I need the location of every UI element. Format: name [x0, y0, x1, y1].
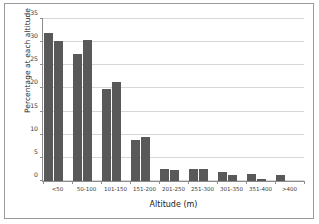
y-tick-label: 20	[30, 78, 38, 85]
bar-group	[188, 19, 217, 181]
bar-group	[159, 19, 188, 181]
x-tick-mark	[188, 181, 189, 184]
x-tick-label: 101-150	[104, 186, 127, 192]
y-tick-label: 0	[34, 171, 38, 178]
bar	[170, 170, 180, 181]
bar-group	[217, 19, 246, 181]
x-tick-mark	[130, 181, 131, 184]
bar	[83, 40, 93, 181]
x-tick-label: 201-250	[162, 186, 185, 192]
chart-canvas: Percentage at each altitude Devon Tetrad…	[5, 4, 313, 218]
x-tick-mark	[43, 181, 44, 184]
bar-group	[101, 19, 130, 181]
bar-group	[43, 19, 72, 181]
bar	[54, 41, 64, 181]
y-tick-label: 30	[30, 32, 38, 39]
x-tick-label: 351-400	[249, 186, 272, 192]
bar-group	[130, 19, 159, 181]
bar-group	[275, 19, 304, 181]
bar	[44, 33, 54, 181]
plot-area: 05101520253035 <5050-100101-150151-20020…	[43, 19, 304, 181]
x-tick-mark	[217, 181, 218, 184]
y-tick-label: 15	[30, 101, 38, 108]
x-tick-label: 251-300	[191, 186, 214, 192]
bar	[247, 174, 257, 181]
x-tick-mark	[275, 181, 276, 184]
bar	[131, 140, 141, 181]
x-tick-mark	[246, 181, 247, 184]
bar	[112, 82, 122, 181]
bar	[218, 172, 228, 181]
x-tick-label: 301-350	[220, 186, 243, 192]
bar	[160, 169, 170, 181]
x-axis-title: Altitude (m)	[43, 200, 304, 209]
x-tick-mark	[72, 181, 73, 184]
y-tick-label: 5	[34, 147, 38, 154]
bar	[73, 54, 83, 181]
x-tick-mark	[159, 181, 160, 184]
x-tick-label: <50	[52, 186, 64, 192]
x-tick-mark	[101, 181, 102, 184]
bar	[189, 169, 199, 181]
x-tick-label: 151-200	[133, 186, 156, 192]
x-tick-mark	[304, 181, 305, 184]
y-tick-label: 10	[30, 124, 38, 131]
bar	[199, 169, 209, 181]
chart-frame: Percentage at each altitude Devon Tetrad…	[4, 3, 314, 219]
y-tick-label: 25	[30, 55, 38, 62]
y-tick-label: 35	[30, 9, 38, 16]
bars-layer	[43, 19, 304, 181]
x-tick-label: >400	[282, 186, 297, 192]
bar-group	[246, 19, 275, 181]
x-axis-line	[42, 181, 305, 182]
bar	[141, 137, 151, 181]
y-axis-title: Percentage at each altitude	[23, 0, 32, 131]
x-tick-label: 50-100	[77, 186, 96, 192]
bar	[102, 89, 112, 181]
bar-group	[72, 19, 101, 181]
